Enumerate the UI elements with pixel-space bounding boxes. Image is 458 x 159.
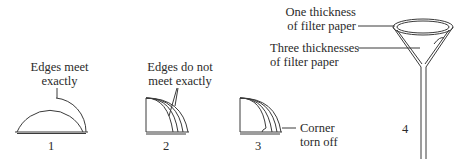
step-4-callout-mid-line2: of filter paper xyxy=(270,55,359,69)
step-2-label: Edges do not meet exactly xyxy=(140,60,220,88)
step-4-callout-top-line2: of filter paper xyxy=(270,19,356,33)
step-1-folded-paper xyxy=(15,88,88,134)
step-4-callout-top: One thickness of filter paper xyxy=(270,5,356,33)
step-1-label: Edges meet exactly xyxy=(22,60,97,88)
step-2-number: 2 xyxy=(163,139,169,153)
step-3-label-line2: torn off xyxy=(300,135,338,149)
step-1-label-line2: exactly xyxy=(22,74,97,88)
step-2-label-line2: meet exactly xyxy=(140,74,220,88)
step-1-number: 1 xyxy=(48,139,54,153)
step-4-number: 4 xyxy=(402,122,408,136)
step-2-folded-paper xyxy=(146,88,189,134)
step-3-folded-paper xyxy=(240,98,296,134)
step-4-funnel xyxy=(358,19,453,159)
step-4-callout-top-line1: One thickness xyxy=(270,5,356,19)
step-3-label: Corner torn off xyxy=(300,121,338,149)
step-3-label-line1: Corner xyxy=(300,121,338,135)
step-4-callout-mid: Three thicknesses of filter paper xyxy=(270,41,359,69)
step-3-number: 3 xyxy=(255,139,261,153)
step-1-label-line1: Edges meet xyxy=(22,60,97,74)
step-2-label-line1: Edges do not xyxy=(140,60,220,74)
step-4-callout-mid-line1: Three thicknesses xyxy=(270,41,359,55)
